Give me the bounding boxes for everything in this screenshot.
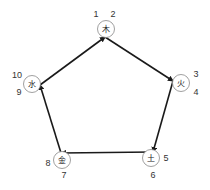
node-wood-label: 木 (102, 24, 110, 34)
five-elements-diagram: 木 1 2 火 3 4 土 5 6 金 7 8 水 9 10 (0, 0, 210, 190)
node-water-number-10: 10 (12, 70, 22, 80)
node-water-label: 水 (28, 79, 36, 89)
edge-metal-water (40, 85, 61, 153)
edge-water-wood (40, 37, 105, 85)
node-fire-label: 火 (177, 79, 185, 88)
node-wood-number-1: 1 (93, 9, 98, 19)
node-metal-number-7: 7 (61, 170, 66, 180)
node-earth-label: 土 (147, 153, 155, 163)
node-water-number-9: 9 (16, 87, 21, 97)
node-metal-label: 金 (58, 155, 66, 165)
node-wood-number-2: 2 (110, 9, 115, 19)
edge-wood-fire (105, 37, 173, 81)
node-metal: 金 7 8 (45, 152, 70, 181)
node-fire-number-4: 4 (193, 87, 198, 97)
edge-earth-metal (61, 152, 153, 153)
node-metal-number-8: 8 (45, 158, 50, 168)
edges (40, 37, 173, 153)
edge-fire-earth (153, 81, 173, 152)
node-earth-number-5: 5 (163, 153, 168, 163)
node-water: 水 9 10 (12, 70, 41, 97)
node-earth-number-6: 6 (150, 170, 155, 180)
node-fire: 火 3 4 (173, 69, 199, 97)
node-wood: 木 1 2 (93, 9, 115, 38)
node-fire-number-3: 3 (193, 69, 198, 79)
node-earth: 土 5 6 (143, 150, 169, 181)
